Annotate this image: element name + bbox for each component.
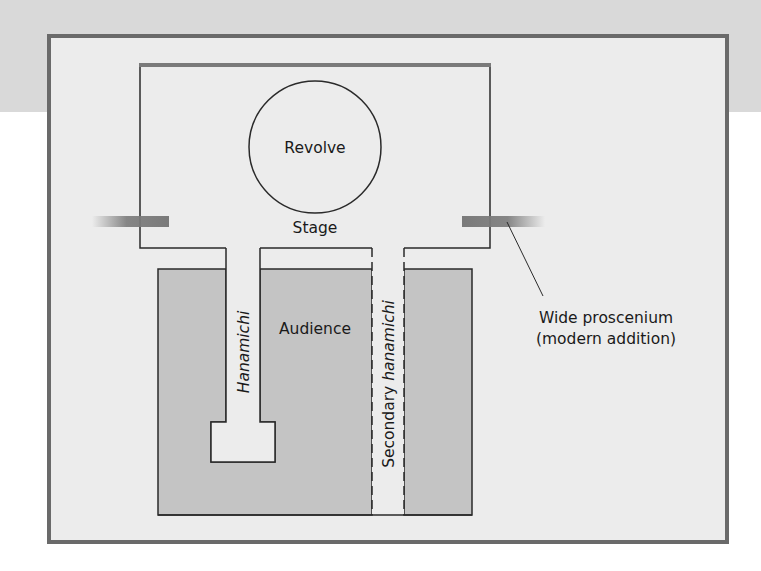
proscenium-label-line2: (modern addition) bbox=[536, 330, 676, 348]
proscenium-bar-right bbox=[462, 216, 545, 227]
audience-area bbox=[158, 269, 472, 515]
proscenium-label-line1: Wide proscenium bbox=[539, 309, 673, 327]
audience-left-block bbox=[158, 269, 372, 515]
audience-label: Audience bbox=[279, 320, 351, 338]
kabuki-floor-plan: Revolve Stage Audience Hanamichi Seconda… bbox=[0, 0, 761, 571]
revolve-label: Revolve bbox=[284, 139, 345, 157]
stage-label: Stage bbox=[293, 219, 338, 237]
audience-right-block bbox=[404, 269, 472, 515]
secondary-hanamichi-italic: hanamichi bbox=[380, 299, 398, 380]
secondary-hanamichi-label: Secondary hanamichi bbox=[380, 299, 398, 467]
hanamichi-label: Hanamichi bbox=[235, 310, 253, 393]
secondary-hanamichi-prefix: Secondary bbox=[380, 381, 398, 468]
proscenium-bar-left bbox=[92, 216, 169, 227]
proscenium-leader-line bbox=[507, 222, 543, 296]
